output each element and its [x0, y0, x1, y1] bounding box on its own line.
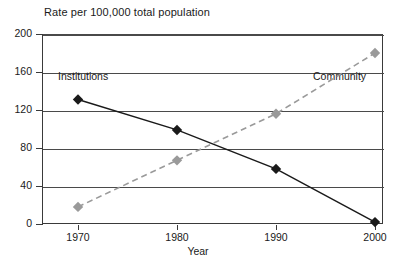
y-axis-tick — [36, 186, 42, 187]
series-label-community: Community — [313, 70, 366, 82]
y-axis-line — [42, 34, 43, 225]
plot-area — [42, 34, 383, 224]
x-axis-label: 1990 — [251, 231, 301, 243]
x-axis-tick — [375, 225, 376, 230]
gridline — [43, 111, 384, 112]
y-axis-tick — [36, 34, 42, 35]
y-axis-label: 120 — [0, 104, 32, 115]
x-axis-label: 1980 — [152, 231, 202, 243]
y-axis-label: 200 — [0, 28, 32, 39]
series-label-institutions: Institutions — [58, 70, 108, 82]
x-axis-tick — [177, 225, 178, 230]
gridline — [43, 35, 384, 36]
x-axis-tick — [276, 225, 277, 230]
y-axis-label: 40 — [0, 180, 32, 191]
x-axis-label: 2000 — [350, 231, 396, 243]
y-axis-label: 160 — [0, 66, 32, 77]
y-axis-tick — [36, 110, 42, 111]
y-axis-tick — [36, 72, 42, 73]
y-axis-tick — [36, 148, 42, 149]
y-axis-label: 0 — [0, 218, 32, 229]
gridline — [43, 187, 384, 188]
gridline — [43, 149, 384, 150]
x-axis-tick — [78, 225, 79, 230]
chart-title: Rate per 100,000 total population — [44, 6, 210, 19]
y-axis-tick — [36, 224, 42, 225]
chart-container: Rate per 100,000 total population 040801… — [0, 0, 396, 260]
x-axis-title: Year — [0, 245, 396, 257]
y-axis-label: 80 — [0, 142, 32, 153]
x-axis-label: 1970 — [53, 231, 103, 243]
